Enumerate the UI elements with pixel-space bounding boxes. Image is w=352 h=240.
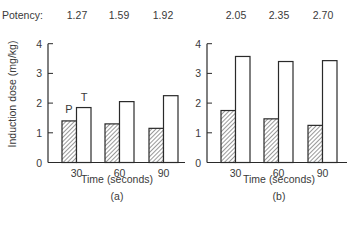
bar-p	[105, 124, 120, 163]
y-tick-label: 2	[195, 97, 201, 109]
bar-p	[62, 121, 77, 163]
bar-t	[164, 96, 179, 163]
x-tick-label: 90	[317, 167, 329, 179]
x-axis-label-b: Time (seconds)	[243, 173, 315, 185]
chart-panel-a: 01234306090	[36, 38, 185, 179]
bar-p	[221, 111, 236, 163]
bar-label-p: P	[65, 103, 72, 115]
panel-caption-a: (a)	[111, 190, 124, 202]
x-tick-label: 30	[230, 167, 242, 179]
y-tick-label: 3	[195, 67, 201, 79]
y-tick-label: 0	[36, 157, 42, 169]
y-tick-label: 1	[36, 127, 42, 139]
bar-t	[279, 62, 294, 163]
y-tick-label: 4	[36, 38, 42, 50]
y-tick-label: 2	[36, 97, 42, 109]
y-tick-label: 3	[36, 67, 42, 79]
chart-panel-b: 01234306090	[195, 38, 347, 179]
bar-t	[323, 61, 338, 163]
bar-t	[236, 56, 251, 162]
panel-caption-b: (b)	[273, 190, 286, 202]
bar-label-t: T	[81, 91, 88, 103]
bar-p	[149, 128, 164, 162]
bar-p	[308, 125, 323, 162]
y-tick-label: 1	[195, 127, 201, 139]
x-axis-label-a: Time (seconds)	[81, 173, 153, 185]
bar-t	[77, 108, 92, 163]
y-tick-label: 4	[195, 38, 201, 50]
x-tick-label: 90	[158, 167, 170, 179]
bar-p	[264, 119, 279, 163]
y-tick-label: 0	[195, 157, 201, 169]
bar-t	[120, 102, 135, 163]
